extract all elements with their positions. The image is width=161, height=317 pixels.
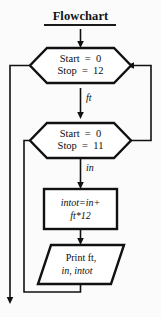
node-outer-loop-line2: Stop = 12 (30, 65, 131, 76)
node-output-line2: in, intot (34, 265, 120, 276)
node-inner-loop-line2: Stop = 11 (30, 140, 131, 151)
title-underline (44, 24, 116, 26)
connector-title-to-outer-loop (77, 29, 84, 48)
node-output[interactable]: Print ft, in, intot (38, 245, 124, 284)
node-process-line1: intot=in+ (44, 197, 117, 208)
connector-outer-feedback-loop (7, 66, 36, 305)
node-process-line2: ft*12 (44, 210, 117, 221)
connector-process-to-output (77, 229, 84, 245)
node-output-line1: Print ft, (38, 252, 124, 263)
connector-inner-loop-to-process (77, 159, 84, 189)
node-outer-loop-line1: Start = 0 (30, 53, 131, 64)
node-inner-loop-line1: Start = 0 (30, 128, 131, 139)
edge-label-in: in (86, 162, 94, 173)
node-outer-loop[interactable]: Start = 0 Stop = 12 (30, 48, 131, 83)
diagram-title: Flowchart (0, 6, 161, 24)
edge-label-ft: ft (86, 92, 92, 103)
connector-outer-loop-to-inner-loop (77, 88, 84, 119)
node-process[interactable]: intot=in+ ft*12 (44, 189, 117, 229)
node-inner-loop[interactable]: Start = 0 Stop = 11 (30, 123, 131, 158)
diagram-title-text: Flowchart (53, 9, 109, 23)
